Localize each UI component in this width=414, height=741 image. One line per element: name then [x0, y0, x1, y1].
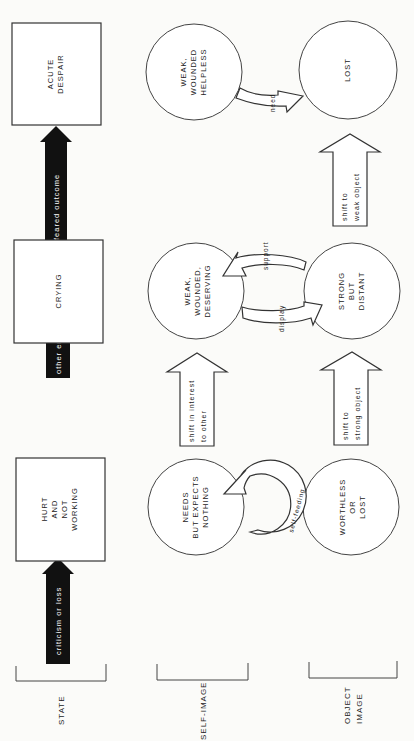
svg-text:WOUNDED: WOUNDED [189, 49, 198, 96]
svg-text:DESPAIR: DESPAIR [56, 54, 65, 93]
shift-strong-arrow: shift to strong object [321, 352, 381, 445]
svg-text:NEEDS: NEEDS [181, 492, 190, 523]
object-image-worthless: WORTHLESS OR LOST [303, 459, 399, 555]
row-bracket-self-image [157, 663, 248, 680]
svg-text:WORTHLESS: WORTHLESS [338, 479, 347, 535]
svg-text:support: support [262, 241, 270, 270]
svg-text:STRONG: STRONG [337, 272, 346, 310]
svg-text:BUT EXPECTS: BUT EXPECTS [191, 476, 200, 539]
state-arrow-criticism: criticism or loss [42, 558, 74, 664]
self-image-helpless: WEAK, WOUNDED HELPLESS [146, 24, 242, 120]
svg-text:criticism or loss: criticism or loss [54, 587, 63, 655]
row-label-object-image-2: IMAGE [355, 693, 364, 724]
row-bracket-state [16, 664, 106, 681]
svg-text:display: display [278, 305, 286, 332]
need-arrow: need [236, 88, 303, 112]
state-box-despair: ACUTE DESPAIR [12, 23, 101, 125]
svg-text:LOST: LOST [358, 495, 367, 519]
svg-text:strong object: strong object [354, 387, 362, 440]
svg-text:DISTANT: DISTANT [357, 272, 366, 311]
svg-text:CRYING: CRYING [54, 273, 63, 308]
row-bracket-object-image [309, 661, 397, 678]
svg-text:feared outcome: feared outcome [52, 174, 61, 240]
svg-text:NOT: NOT [60, 500, 69, 519]
svg-text:shift to: shift to [342, 411, 349, 440]
svg-text:WEAK,: WEAK, [183, 276, 192, 305]
svg-text:WEAK,: WEAK, [179, 57, 188, 86]
svg-text:WOUNDED,: WOUNDED, [193, 266, 202, 316]
svg-text:ACUTE: ACUTE [46, 59, 55, 89]
svg-text:weak object: weak object [353, 173, 361, 222]
svg-text:HURT: HURT [40, 497, 49, 522]
support-arrow: support [223, 241, 306, 276]
svg-text:LOST: LOST [343, 58, 352, 82]
diagram: STATE SELF-IMAGE OBJECT IMAGE criticism … [0, 0, 414, 741]
svg-text:shift in interest: shift in interest [188, 380, 195, 442]
state-box-crying: CRYING [14, 240, 103, 343]
object-image-lost: LOST [299, 21, 397, 119]
state-box-hurt: HURT AND NOT WORKING [16, 458, 105, 561]
row-label-self-image: SELF-IMAGE [199, 682, 208, 740]
svg-text:WORKING: WORKING [70, 487, 79, 531]
row-label-state: STATE [57, 695, 66, 725]
svg-text:need: need [269, 94, 276, 112]
row-label-object-image-1: OBJECT [343, 686, 352, 724]
svg-text:HELPLESS: HELPLESS [199, 49, 208, 96]
shift-interest-arrow: shift in interest to other [167, 353, 227, 446]
svg-text:to other: to other [200, 410, 207, 442]
svg-text:OR: OR [348, 500, 357, 513]
shift-weak-arrow: shift to weak object [320, 134, 380, 226]
state-arrow-feared-outcome: feared outcome [40, 126, 72, 245]
self-image-needs: NEEDS BUT EXPECTS NOTHING [148, 459, 244, 555]
svg-text:NOTHING: NOTHING [201, 486, 210, 528]
svg-text:shift to: shift to [341, 192, 348, 221]
display-arrow: display [242, 302, 322, 332]
self-image-deserving: WEAK, WOUNDED, DESERVING [148, 243, 244, 339]
svg-text:BUT: BUT [347, 282, 356, 300]
svg-text:AND: AND [50, 500, 59, 519]
svg-text:DESERVING: DESERVING [203, 264, 212, 317]
object-image-strong: STRONG BUT DISTANT [304, 243, 400, 339]
